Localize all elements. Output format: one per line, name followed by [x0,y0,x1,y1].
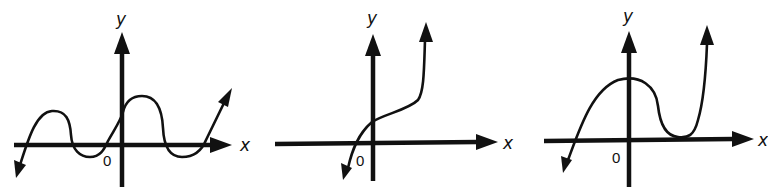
x-axis-arrow-icon [732,131,754,147]
y-axis-arrow-icon [365,34,381,56]
curve-arrow-icon [218,88,232,107]
graph-3: y x 0 [544,6,768,187]
x-axis-arrow-icon [210,137,232,153]
graphs-figure: y x 0 y x 0 y x 0 [0,0,768,195]
origin-label: 0 [356,152,364,169]
curve-arrow-icon [14,160,26,178]
curve-2 [348,40,425,168]
curve-arrow-icon [341,163,352,180]
x-axis [275,142,478,144]
y-axis-label: y [366,8,378,28]
x-axis-arrow-icon [476,134,498,150]
y-axis-label: y [622,6,634,26]
y-axis-arrow-icon [621,31,637,53]
curve-arrow-icon [419,22,433,42]
origin-label: 0 [612,149,620,166]
graph-2: y x 0 [275,8,514,181]
curve-arrow-icon [561,156,572,173]
x-axis [544,139,734,141]
y-axis-arrow-icon [114,32,130,54]
y-axis-label: y [115,9,127,29]
graph-1: y x 0 [14,9,251,187]
x-axis-label: x [239,135,251,155]
curve-arrow-icon [700,25,714,45]
x-axis-label: x [502,133,514,153]
x-axis-label: x [757,130,768,150]
origin-label: 0 [103,152,111,169]
